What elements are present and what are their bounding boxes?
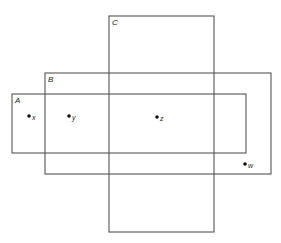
rectangle-b-outline [45,73,271,174]
venn-rectangles-diagram: A B C x y z w [0,0,281,243]
point-y-dot [67,114,71,118]
rectangle-c-label: C [112,18,118,27]
point-x: x [27,114,36,121]
point-w-dot [243,162,247,166]
point-x-dot [27,114,31,118]
rectangle-a: A [12,94,246,153]
point-y-label: y [71,114,76,122]
diagram-svg: A B C x y z w [0,0,281,243]
point-w-label: w [248,162,254,169]
rectangle-a-outline [12,94,246,153]
point-z-label: z [159,115,164,122]
point-y: y [67,114,76,122]
rectangle-b-label: B [48,75,54,84]
rectangle-c-outline [109,16,214,232]
rectangle-c: C [109,16,214,232]
point-z: z [155,115,164,122]
rectangle-b: B [45,73,271,174]
point-z-dot [155,115,159,119]
point-x-label: x [31,114,36,121]
rectangle-a-label: A [14,96,20,105]
point-w: w [243,162,254,169]
